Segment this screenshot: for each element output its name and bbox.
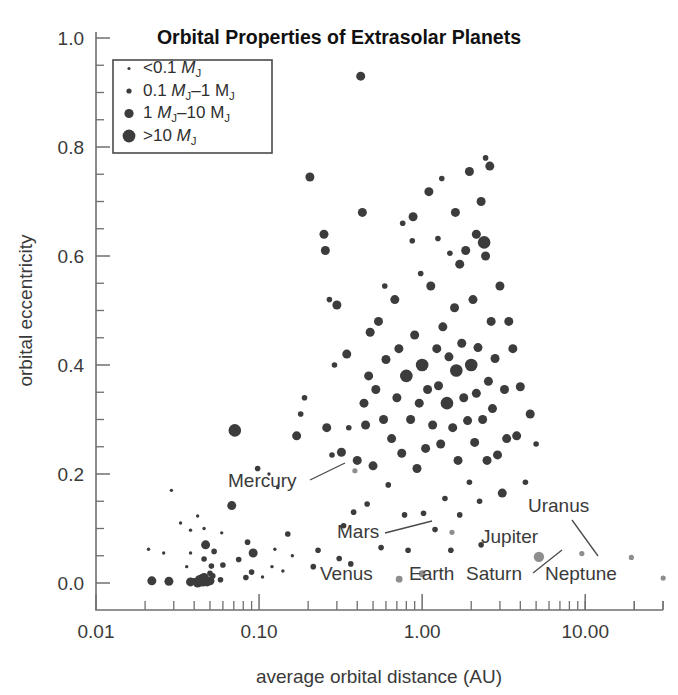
data-point — [483, 456, 492, 465]
data-point — [508, 344, 517, 353]
data-point — [400, 221, 406, 227]
legend-group: <0.1 MJ0.1 MJ–1 MJ1 MJ–10 MJ>10 MJ — [113, 58, 272, 153]
data-point — [369, 461, 378, 470]
data-point — [185, 565, 188, 568]
data-point — [382, 283, 388, 289]
data-point — [423, 385, 432, 394]
data-point — [281, 569, 284, 572]
data-point — [439, 176, 445, 182]
data-point — [450, 364, 463, 377]
data-point — [319, 230, 328, 239]
data-point — [249, 549, 258, 558]
data-point — [447, 250, 453, 256]
data-point — [236, 557, 242, 563]
data-point — [371, 385, 380, 394]
data-point — [468, 295, 477, 304]
data-point — [465, 167, 474, 176]
data-point — [463, 416, 472, 425]
solar-system-point-mars — [449, 530, 454, 535]
data-point — [202, 527, 205, 530]
data-point — [491, 354, 500, 363]
x-axis-tick-label: 10.00 — [561, 621, 609, 642]
data-point — [472, 230, 481, 239]
solar-system-point-jupiter — [534, 552, 544, 562]
data-point — [400, 370, 413, 383]
data-point — [292, 431, 301, 440]
data-point — [162, 551, 165, 554]
y-axis-tick-label: 0.6 — [58, 246, 84, 267]
data-point — [201, 540, 210, 549]
data-point — [448, 423, 457, 432]
data-point — [406, 415, 415, 424]
data-point — [342, 350, 351, 359]
data-point — [322, 423, 331, 432]
data-point — [432, 344, 441, 353]
data-point — [270, 565, 273, 568]
data-point — [397, 449, 406, 458]
data-point — [484, 377, 493, 386]
data-point — [195, 575, 204, 584]
data-point — [418, 271, 424, 277]
legend-label-2: 1 MJ–10 MJ — [143, 103, 230, 124]
y-axis-tick-label: 0.8 — [58, 137, 84, 158]
annotation-label-saturn: Saturn — [466, 563, 522, 584]
annotation-label-venus: Venus — [320, 563, 373, 584]
data-point — [442, 496, 448, 502]
data-point — [147, 548, 150, 551]
data-point — [332, 301, 341, 310]
data-point — [448, 548, 454, 554]
data-point — [533, 441, 539, 447]
data-point — [402, 512, 408, 518]
data-point — [424, 187, 433, 196]
data-point — [361, 420, 370, 429]
data-point — [477, 498, 483, 504]
data-point — [415, 399, 424, 408]
solar-system-point-uranus — [629, 555, 634, 560]
data-point — [392, 393, 401, 402]
legend-label-3: >10 MJ — [143, 126, 196, 147]
data-point — [353, 456, 362, 465]
legend-label-0: <0.1 MJ — [143, 58, 201, 79]
data-point — [374, 317, 383, 326]
data-point — [245, 539, 251, 545]
y-axis-title: orbital eccentricity — [15, 234, 36, 387]
data-point — [450, 303, 459, 312]
data-point — [500, 385, 509, 394]
data-point — [412, 464, 421, 473]
data-point — [147, 576, 156, 585]
y-axis-tick-label: 1.0 — [58, 28, 84, 49]
data-point — [481, 252, 490, 261]
x-axis-tick-label: 0.01 — [78, 621, 115, 642]
page-title: Orbital Properties of Extrasolar Planets — [157, 26, 521, 48]
data-point — [302, 395, 308, 401]
data-point — [164, 577, 173, 586]
data-point — [457, 339, 466, 348]
data-point — [454, 456, 463, 465]
data-point — [394, 344, 403, 353]
data-point — [305, 172, 314, 181]
data-point — [211, 549, 217, 555]
annotation-label-mars: Mars — [337, 521, 379, 542]
data-point — [428, 420, 437, 429]
data-point — [329, 452, 335, 458]
data-point — [321, 246, 330, 255]
plot-background — [0, 0, 678, 695]
data-point — [512, 431, 521, 440]
data-point — [387, 434, 396, 443]
data-point — [405, 548, 411, 554]
data-point — [461, 246, 470, 255]
data-point — [220, 531, 223, 534]
data-point — [493, 450, 502, 459]
data-point — [189, 528, 192, 531]
data-point — [327, 297, 333, 303]
solar-system-point-saturn — [579, 551, 584, 556]
data-point — [189, 551, 192, 554]
data-point — [218, 577, 224, 583]
annotation-label-uranus: Uranus — [528, 495, 589, 516]
annotation-label-earth: Earth — [409, 563, 454, 584]
data-point — [473, 343, 482, 352]
data-point — [451, 208, 460, 217]
data-point — [227, 501, 236, 510]
data-point — [351, 509, 357, 515]
data-point — [378, 545, 384, 551]
